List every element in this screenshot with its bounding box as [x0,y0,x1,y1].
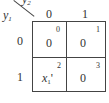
cell-1-index: 1 [96,26,100,34]
cell-2-index: 2 [57,62,61,70]
col-header-1: 1 [82,8,88,20]
col-variable-label: y2 [22,0,31,9]
cell-2-value: x1' [42,72,53,88]
row-header-0: 0 [17,35,23,47]
grid-divider-horizontal [32,57,106,58]
cell-1-value: 0 [80,37,86,49]
cell-0-value: 0 [46,37,52,49]
cell-0-index: 0 [56,26,60,34]
cell-3-value: 0 [80,72,86,84]
row-variable-label: y1 [3,9,12,25]
row-header-1: 1 [17,71,23,83]
cell-3-index: 3 [96,62,100,70]
col-header-0: 0 [46,8,52,20]
